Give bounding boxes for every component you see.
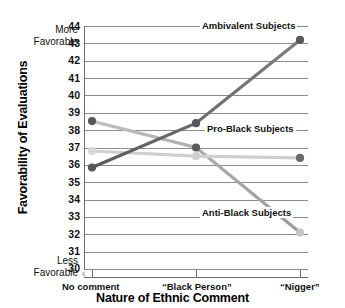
data-point bbox=[192, 152, 200, 160]
x-tick-1 bbox=[196, 270, 197, 277]
y-tick-44: 44 bbox=[58, 21, 80, 32]
x-tick-2 bbox=[300, 270, 301, 277]
y-axis-break-mark: ‹ bbox=[82, 268, 85, 279]
data-point bbox=[88, 163, 96, 171]
series-layer bbox=[84, 26, 308, 269]
data-point bbox=[296, 229, 304, 237]
series-anti-black bbox=[88, 117, 304, 237]
y-tick-33: 33 bbox=[58, 211, 80, 222]
x-tick-0 bbox=[92, 270, 93, 277]
data-point bbox=[192, 119, 200, 127]
data-point bbox=[88, 147, 96, 155]
y-tick-40: 40 bbox=[58, 90, 80, 101]
y-tick-32: 32 bbox=[58, 229, 80, 240]
series-label-pro-black: Pro-Black Subjects bbox=[205, 123, 296, 134]
y-tick-36: 36 bbox=[58, 159, 80, 170]
y-tick-43: 43 bbox=[58, 38, 80, 49]
line-chart: More Favorable Less Favorable 44 43 42 4… bbox=[0, 0, 345, 308]
y-tick-38: 38 bbox=[58, 125, 80, 136]
y-tick-34: 34 bbox=[58, 194, 80, 205]
y-tick-42: 42 bbox=[58, 55, 80, 66]
y-tick-31: 31 bbox=[58, 246, 80, 257]
series-label-ambivalent: Ambivalent Subjects bbox=[200, 20, 297, 31]
y-tick-41: 41 bbox=[58, 73, 80, 84]
data-point bbox=[192, 143, 200, 151]
y-tick-39: 39 bbox=[58, 107, 80, 118]
data-point bbox=[296, 154, 304, 162]
data-point bbox=[88, 117, 96, 125]
y-axis-line bbox=[84, 26, 85, 270]
y-tick-35: 35 bbox=[58, 177, 80, 188]
y-tick-37: 37 bbox=[58, 142, 80, 153]
x-axis-line bbox=[84, 277, 308, 278]
x-axis-title: Nature of Ethnic Comment bbox=[0, 291, 345, 305]
plot-area bbox=[84, 26, 308, 269]
y-axis-title: Favorability of Evaluations bbox=[16, 53, 31, 223]
series-label-anti-black: Anti-Black Subjects bbox=[200, 207, 293, 218]
y-tick-30: 30 bbox=[58, 263, 80, 274]
data-point bbox=[296, 36, 304, 44]
